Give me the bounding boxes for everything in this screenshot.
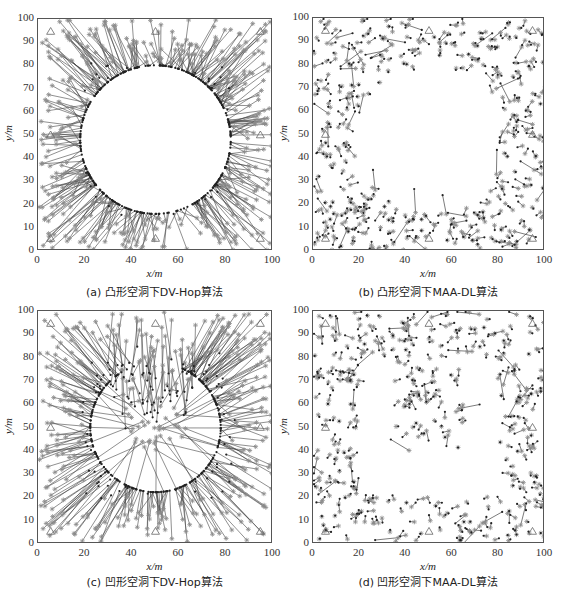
scatter-a [38, 19, 272, 250]
x-tick-label: 40 [390, 254, 420, 265]
x-axis-label: x/m [135, 560, 175, 572]
panel-caption: (d) 凹形空洞下MAA-DL算法 [308, 573, 548, 589]
y-tick-label: 20 [287, 490, 309, 501]
y-tick-label: 50 [12, 128, 34, 139]
y-tick-label: 70 [287, 374, 309, 385]
x-tick-label: 20 [69, 254, 99, 265]
anchor-triangle-icon [47, 527, 55, 534]
x-tick-label: 0 [22, 547, 52, 558]
x-tick-label: 60 [436, 254, 466, 265]
y-tick-label: 20 [12, 198, 34, 209]
y-tick-label: 10 [287, 514, 309, 525]
y-tick-label: 100 [287, 304, 309, 315]
anchor-triangle-icon [47, 424, 55, 431]
y-tick-label: 50 [287, 421, 309, 432]
x-tick-label: 100 [257, 254, 287, 265]
y-tick-label: 80 [287, 58, 309, 69]
x-tick-label: 80 [210, 547, 240, 558]
y-tick-label: 80 [12, 351, 34, 362]
y-tick-label: 20 [287, 197, 309, 208]
y-tick-label: 40 [12, 151, 34, 162]
y-tick-label: 90 [287, 34, 309, 45]
y-tick-label: 90 [287, 327, 309, 338]
y-tick-label: 40 [12, 444, 34, 455]
anchor-triangle-icon [529, 27, 537, 34]
anchor-triangle-icon [425, 527, 433, 534]
anchor-triangle-icon [152, 320, 160, 327]
anchor-triangle-icon [256, 424, 264, 431]
y-tick-label: 60 [12, 397, 34, 408]
y-tick-label: 60 [287, 397, 309, 408]
x-tick-label: 40 [116, 547, 146, 558]
y-tick-label: 10 [12, 221, 34, 232]
anchor-triangle-icon [425, 320, 433, 327]
y-tick-label: 70 [12, 82, 34, 93]
y-tick-label: 100 [12, 12, 34, 23]
x-axis-label: x/m [408, 560, 448, 572]
y-tick-label: 10 [287, 221, 309, 232]
x-tick-label: 0 [297, 547, 327, 558]
panel-caption: (a) 凸形空洞下DV-Hop算法 [35, 283, 275, 299]
plot-area-d [312, 310, 544, 543]
y-tick-label: 30 [12, 174, 34, 185]
x-tick-label: 100 [257, 547, 287, 558]
x-tick-label: 80 [483, 547, 513, 558]
y-tick-label: 50 [287, 128, 309, 139]
scatter-d [313, 311, 544, 543]
plot-area-b [312, 17, 544, 250]
y-tick-label: 30 [287, 467, 309, 478]
x-axis-label: x/m [135, 267, 175, 279]
plot-area-a [37, 18, 272, 250]
y-tick-label: 100 [12, 304, 34, 315]
x-tick-label: 40 [116, 254, 146, 265]
x-tick-label: 60 [436, 547, 466, 558]
panel-caption: (b) 凸形空洞下MAA-DL算法 [308, 283, 548, 299]
x-tick-label: 60 [163, 547, 193, 558]
y-tick-label: 40 [287, 444, 309, 455]
scatter-c [38, 311, 272, 543]
x-tick-label: 80 [210, 254, 240, 265]
x-tick-label: 100 [529, 254, 559, 265]
y-tick-label: 90 [12, 35, 34, 46]
y-tick-label: 80 [12, 58, 34, 69]
anchor-triangle-icon [256, 131, 264, 138]
y-tick-label: 50 [12, 421, 34, 432]
y-tick-label: 40 [287, 151, 309, 162]
x-tick-label: 40 [390, 547, 420, 558]
x-tick-label: 20 [69, 547, 99, 558]
anchor-triangle-icon [425, 27, 433, 34]
x-tick-label: 60 [163, 254, 193, 265]
scatter-b [313, 18, 544, 250]
anchor-triangle-icon [322, 320, 330, 327]
y-tick-label: 80 [287, 351, 309, 362]
y-tick-label: 70 [287, 81, 309, 92]
x-tick-label: 100 [529, 547, 559, 558]
x-tick-label: 0 [22, 254, 52, 265]
panel-caption: (c) 凹形空洞下DV-Hop算法 [35, 573, 275, 589]
plot-area-c [37, 310, 272, 543]
x-tick-label: 20 [343, 547, 373, 558]
y-axis-label: y/m [277, 118, 289, 148]
y-tick-label: 30 [287, 174, 309, 185]
x-tick-label: 80 [483, 254, 513, 265]
y-tick-label: 60 [12, 105, 34, 116]
y-tick-label: 10 [12, 514, 34, 525]
y-tick-label: 100 [287, 11, 309, 22]
y-tick-label: 90 [12, 327, 34, 338]
y-axis-label: y/m [2, 118, 14, 148]
anchor-triangle-icon [425, 234, 433, 241]
y-axis-label: y/m [2, 411, 14, 441]
anchor-triangle-icon [47, 28, 55, 35]
y-tick-label: 70 [12, 374, 34, 385]
y-axis-label: y/m [277, 411, 289, 441]
x-tick-label: 20 [343, 254, 373, 265]
y-tick-label: 60 [287, 104, 309, 115]
x-axis-label: x/m [408, 267, 448, 279]
x-tick-label: 0 [297, 254, 327, 265]
y-tick-label: 20 [12, 490, 34, 501]
y-tick-label: 30 [12, 467, 34, 478]
